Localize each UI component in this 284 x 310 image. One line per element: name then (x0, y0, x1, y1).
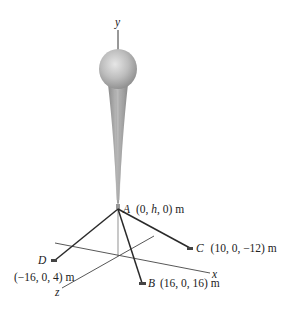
point-b-label: B (16, 0, 16) m (148, 277, 220, 290)
point-d-coords: (−16, 0, 4) m (14, 271, 75, 284)
balloon-tether-diagram: y x z A (0, h, 0) m (0, 0, 284, 310)
anchor-b-icon (139, 282, 146, 285)
x-axis (55, 243, 210, 273)
balloon (99, 49, 137, 203)
point-d-label: D (37, 254, 47, 266)
point-a-label: A (0, h, 0) m (122, 203, 184, 216)
y-axis-label: y (114, 16, 121, 29)
z-axis-label: z (54, 286, 60, 298)
anchor-c-icon (187, 247, 193, 250)
point-a-marker (116, 204, 120, 209)
point-c-label: C (10, 0, −12) m (196, 242, 277, 255)
anchor-d-icon (51, 259, 57, 262)
